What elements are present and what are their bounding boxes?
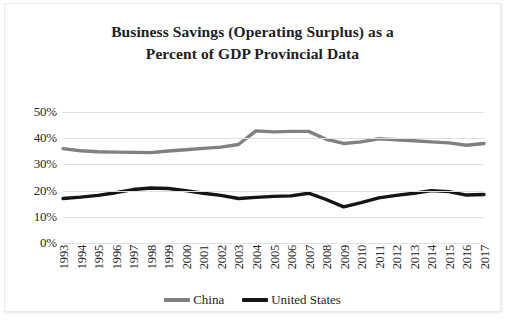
legend-item-china[interactable]: China bbox=[164, 292, 224, 308]
x-axis-tick-label: 2015 bbox=[443, 245, 458, 269]
y-axis-tick-label: 50% bbox=[5, 104, 57, 120]
chart-legend: ChinaUnited States bbox=[5, 292, 500, 308]
gridline bbox=[63, 164, 484, 165]
x-axis-tick-label: 1997 bbox=[127, 245, 142, 269]
gridline bbox=[63, 138, 484, 139]
x-axis-tick-label: 2007 bbox=[303, 245, 318, 269]
y-axis-tick-label: 30% bbox=[5, 156, 57, 172]
chart-title-line-1: Business Savings (Operating Surplus) as … bbox=[111, 23, 394, 40]
x-axis-tick-label: 1993 bbox=[57, 245, 72, 269]
y-axis-tick-mark bbox=[53, 138, 57, 139]
legend-swatch bbox=[242, 298, 268, 302]
legend-swatch bbox=[164, 298, 190, 302]
y-axis-tick-mark bbox=[53, 164, 57, 165]
x-axis-tick-label: 2008 bbox=[320, 245, 335, 269]
y-axis-tick-mark bbox=[53, 191, 57, 192]
gridline bbox=[63, 243, 484, 244]
legend-label: United States bbox=[271, 292, 341, 308]
y-axis-tick-label: 10% bbox=[5, 209, 57, 225]
chart-container: Business Savings (Operating Surplus) as … bbox=[4, 3, 501, 312]
x-axis-tick-label: 2003 bbox=[232, 245, 247, 269]
y-axis-tick-label: 40% bbox=[5, 130, 57, 146]
y-axis-tick-mark bbox=[53, 243, 57, 244]
x-axis-tick-label: 2011 bbox=[373, 245, 388, 269]
x-axis-tick-label: 1996 bbox=[110, 245, 125, 269]
x-axis-tick-label: 2016 bbox=[460, 245, 475, 269]
y-axis-tick-mark bbox=[53, 217, 57, 218]
gridline bbox=[63, 217, 484, 218]
x-axis: 1993199419951996199719981999200020012002… bbox=[63, 245, 484, 293]
x-axis-tick-label: 2005 bbox=[268, 245, 283, 269]
x-axis-tick-label: 1999 bbox=[162, 245, 177, 269]
series-line-china bbox=[63, 131, 484, 153]
x-axis-tick-label: 2009 bbox=[338, 245, 353, 269]
plot-area bbox=[63, 112, 484, 243]
y-axis-tick-label: 20% bbox=[5, 183, 57, 199]
chart-title-line-2: Percent of GDP Provincial Data bbox=[5, 43, 500, 65]
legend-label: China bbox=[193, 292, 224, 308]
x-axis-tick-label: 2013 bbox=[408, 245, 423, 269]
x-axis-tick-label: 2012 bbox=[390, 245, 405, 269]
legend-item-united-states[interactable]: United States bbox=[242, 292, 341, 308]
gridline bbox=[63, 112, 484, 113]
x-axis-tick-label: 2010 bbox=[355, 245, 370, 269]
x-axis-tick-label: 2017 bbox=[478, 245, 493, 269]
x-axis-tick-label: 2002 bbox=[215, 245, 230, 269]
x-axis-tick-label: 2014 bbox=[425, 245, 440, 269]
gridline bbox=[63, 191, 484, 192]
series-lines bbox=[63, 112, 484, 243]
y-axis: 0%10%20%30%40%50% bbox=[5, 104, 57, 254]
x-axis-tick-label: 2000 bbox=[180, 245, 195, 269]
y-axis-tick-label: 0% bbox=[5, 235, 57, 251]
y-axis-tick-mark bbox=[53, 112, 57, 113]
x-axis-tick-label: 2006 bbox=[285, 245, 300, 269]
x-axis-tick-label: 2001 bbox=[197, 245, 212, 269]
x-axis-tick-label: 1998 bbox=[145, 245, 160, 269]
x-axis-tick-label: 1994 bbox=[75, 245, 90, 269]
x-axis-tick-label: 2004 bbox=[250, 245, 265, 269]
chart-title: Business Savings (Operating Surplus) as … bbox=[5, 21, 500, 65]
x-axis-tick-label: 1995 bbox=[92, 245, 107, 269]
